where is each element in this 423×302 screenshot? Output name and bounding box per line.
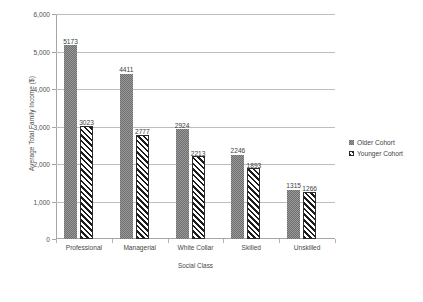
bar-value-label: 3023 — [79, 119, 94, 126]
x-axis-tick-mark — [56, 239, 57, 243]
bar-older: 1315 — [287, 190, 300, 239]
chart-container: Average Total Family Income ($) 01,0002,… — [0, 0, 423, 302]
bar-younger: 3023 — [80, 126, 93, 239]
bar-value-label: 2246 — [231, 147, 246, 154]
y-axis-tick-label: 4,000 — [33, 86, 50, 93]
bar-younger: 2213 — [192, 156, 205, 239]
bar-group: 44112777 — [112, 14, 168, 239]
bar-older: 2246 — [231, 155, 244, 239]
bar-value-label: 2777 — [135, 128, 150, 135]
x-axis-title: Social Class — [56, 262, 335, 269]
x-axis-category-label: Skilled — [223, 244, 279, 251]
bar-value-label: 5173 — [63, 38, 78, 45]
bar-value-label: 1266 — [302, 185, 317, 192]
x-axis-tick-mark — [168, 239, 169, 243]
legend-item[interactable]: Older Cohort — [349, 137, 403, 148]
y-axis-tick-label: 6,000 — [33, 11, 50, 18]
bar-older: 2924 — [176, 129, 189, 239]
x-axis-category-label: Unskilled — [279, 244, 335, 251]
bar-younger: 1266 — [303, 192, 316, 239]
bar-group: 29242213 — [168, 14, 224, 239]
x-axis-category-label: Professional — [56, 244, 112, 251]
bar-value-label: 4411 — [119, 66, 133, 73]
x-axis-tick-mark — [223, 239, 224, 243]
bar-value-label: 2924 — [175, 122, 190, 129]
legend-swatch-icon — [349, 151, 354, 156]
y-axis-tick-label: 0 — [46, 236, 50, 243]
x-axis-category-label: White Collar — [168, 244, 224, 251]
y-axis-tick-label: 2,000 — [33, 161, 50, 168]
y-axis-tick-label: 1,000 — [33, 198, 50, 205]
bar-value-label: 2213 — [191, 150, 206, 157]
legend-item[interactable]: Younger Cohort — [349, 148, 403, 159]
x-axis-category-label: Managerial — [112, 244, 168, 251]
legend-swatch-icon — [349, 140, 354, 145]
x-axis-tick-mark — [112, 239, 113, 243]
y-axis-tick-label: 5,000 — [33, 48, 50, 55]
bar-group: 22461893 — [223, 14, 279, 239]
legend-label: Younger Cohort — [357, 150, 403, 157]
y-axis-tick-label: 3,000 — [33, 123, 50, 130]
plot-area: 01,0002,0003,0004,0005,0006,000 51733023… — [56, 14, 335, 239]
x-axis-tick-mark — [279, 239, 280, 243]
chart-legend: Older CohortYounger Cohort — [349, 137, 403, 159]
bar-younger: 2777 — [136, 135, 149, 239]
bar-group: 13151266 — [279, 14, 335, 239]
legend-label: Older Cohort — [357, 139, 395, 146]
bar-value-label: 1893 — [247, 162, 262, 169]
x-axis-tick-mark — [335, 239, 336, 243]
bar-older: 5173 — [64, 45, 77, 239]
bar-value-label: 1315 — [286, 182, 301, 189]
bar-younger: 1893 — [247, 168, 260, 239]
bar-older: 4411 — [120, 74, 133, 239]
bar-group: 51733023 — [56, 14, 112, 239]
